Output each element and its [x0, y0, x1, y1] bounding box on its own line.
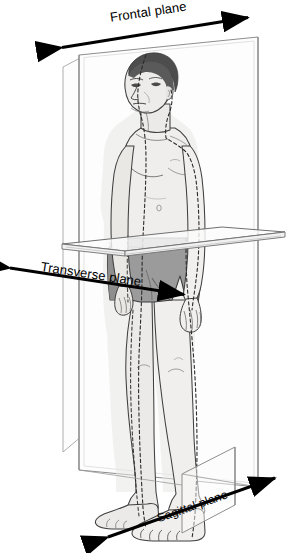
anatomical-planes-figure: Frontal plane Transverse plane Sagittal … [0, 0, 300, 553]
planes-diagram-svg [0, 0, 300, 553]
